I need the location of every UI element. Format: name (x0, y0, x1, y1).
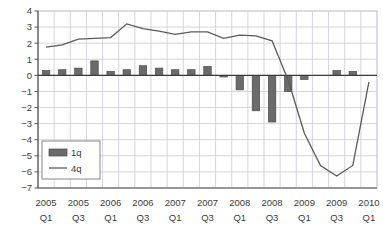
x-axis-tick-label-year: 2007 (197, 197, 218, 208)
y-axis-tick-label: 4 (27, 5, 32, 16)
x-axis-tick-label-quarter: Q1 (104, 212, 117, 223)
x-axis-tick-label-year: 2005 (68, 197, 89, 208)
bar-2007-Q1 (172, 70, 179, 76)
legend-label-1q: 1q (71, 147, 82, 158)
x-axis-tick-label-year: 2006 (132, 197, 153, 208)
y-axis-tick-label: −3 (21, 118, 32, 129)
y-axis-tick-label: −2 (21, 102, 32, 113)
x-axis-tick-label-year: 2006 (100, 197, 121, 208)
y-axis-tick-label: 1 (27, 54, 32, 65)
x-axis-tick-label-year: 2008 (261, 197, 282, 208)
bar-2008-Q1 (236, 75, 243, 89)
legend-swatch-bar (49, 149, 67, 156)
bar-2009-Q3 (333, 71, 340, 76)
y-axis-tick-label: 2 (27, 38, 32, 49)
bar-2005-Q4 (91, 61, 98, 75)
x-axis-tick-label-year: 2009 (326, 197, 347, 208)
x-axis-tick-label-year: 2008 (229, 197, 250, 208)
legend-label-4q: 4q (71, 163, 82, 174)
y-axis-tick-label: −6 (21, 166, 32, 177)
x-axis-tick-label-quarter: Q3 (266, 212, 279, 223)
bar-2006-Q3 (139, 66, 146, 76)
x-axis-tick-label-year: 2010 (358, 197, 379, 208)
bar-2007-Q3 (204, 67, 211, 76)
x-axis-tick-label-quarter: Q1 (169, 212, 182, 223)
y-axis-tick-label: −5 (21, 150, 32, 161)
bar-2006-Q4 (155, 68, 162, 75)
y-axis-tick-label: 0 (27, 70, 32, 81)
x-axis-tick-label-quarter: Q3 (201, 212, 214, 223)
y-axis-tick-label: −7 (21, 182, 32, 193)
x-axis-tick-label-quarter: Q1 (298, 212, 311, 223)
bar-2005-Q2 (59, 70, 66, 76)
x-axis-tick-label-quarter: Q1 (363, 212, 376, 223)
y-axis-tick-label: 3 (27, 21, 32, 32)
x-axis-tick-label-quarter: Q3 (137, 212, 150, 223)
x-axis-tick-label-quarter: Q3 (330, 212, 343, 223)
quarterly-growth-chart: 43210−1−2−3−4−5−6−7 2005Q12005Q32006Q120… (0, 0, 383, 236)
x-axis-tick-label-quarter: Q3 (72, 212, 85, 223)
bar-2008-Q2 (252, 75, 259, 110)
bar-2006-Q1 (107, 71, 114, 75)
bar-2007-Q2 (188, 70, 195, 76)
bar-2009-Q4 (349, 71, 356, 75)
bar-2006-Q2 (123, 70, 130, 76)
bar-2005-Q3 (75, 68, 82, 75)
bar-2008-Q3 (268, 75, 275, 122)
bar-2005-Q1 (42, 71, 49, 76)
x-axis-tick-label-quarter: Q1 (40, 212, 53, 223)
y-axis-tick-label: −1 (21, 86, 32, 97)
x-axis-tick-label-year: 2009 (294, 197, 315, 208)
x-axis-tick-label-year: 2005 (35, 197, 56, 208)
x-axis-tick-label-quarter: Q1 (233, 212, 246, 223)
chart-legend: 1q4q (42, 141, 100, 179)
chart-container: 43210−1−2−3−4−5−6−7 2005Q12005Q32006Q120… (0, 0, 383, 236)
x-axis-tick-label-year: 2007 (165, 197, 186, 208)
y-axis-tick-label: −4 (21, 134, 32, 145)
